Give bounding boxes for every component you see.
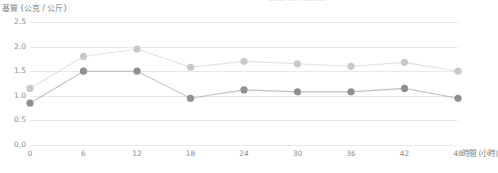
- y-tick-label: 0.5: [2, 116, 26, 124]
- data-point: [454, 95, 461, 102]
- y-tick-label: 2.0: [2, 43, 26, 51]
- data-point: [294, 88, 301, 95]
- data-point: [347, 63, 354, 70]
- data-point: [80, 68, 87, 75]
- data-point: [347, 88, 354, 95]
- plot-area: 0.00.51.01.52.02.5 0612182430364248: [30, 22, 458, 145]
- data-series-layer: [30, 22, 458, 145]
- x-axis-title: 時間 (小時): [462, 149, 498, 158]
- x-tick-label: 18: [186, 149, 196, 158]
- data-point: [187, 95, 194, 102]
- x-tick-label: 6: [81, 149, 86, 158]
- data-point: [133, 68, 140, 75]
- y-tick-label: 2.5: [2, 18, 26, 26]
- y-tick-label: 1.0: [2, 92, 26, 100]
- series-series-light: [26, 45, 461, 92]
- data-point: [294, 60, 301, 67]
- x-tick-label: 42: [400, 149, 410, 158]
- y-tick-label: 0.0: [2, 141, 26, 149]
- data-point: [26, 85, 33, 92]
- data-point: [454, 68, 461, 75]
- data-point: [240, 86, 247, 93]
- x-tick-label: 0: [28, 149, 33, 158]
- data-point: [401, 85, 408, 92]
- y-axis-title: 基質 (公克 / 公斤): [2, 3, 67, 14]
- data-point: [80, 53, 87, 60]
- clipped-chart-title: ——— —— ————: [232, 0, 362, 3]
- x-tick-label: 36: [346, 149, 356, 158]
- x-tick-label: 30: [293, 149, 303, 158]
- data-point: [240, 58, 247, 65]
- data-point: [26, 100, 33, 107]
- x-tick-label: 24: [239, 149, 249, 158]
- y-tick-label: 1.5: [2, 67, 26, 75]
- data-point: [133, 45, 140, 52]
- data-point: [187, 64, 194, 71]
- gridline: [30, 145, 458, 146]
- data-point: [401, 59, 408, 66]
- series-series-dark: [26, 68, 461, 107]
- x-tick-label: 12: [132, 149, 142, 158]
- series-line: [30, 49, 458, 88]
